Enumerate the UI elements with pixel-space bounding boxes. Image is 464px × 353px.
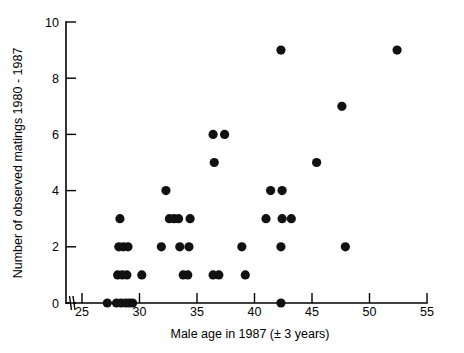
y-ticklabel-0: 0	[52, 297, 59, 311]
x-ticklabel-35: 35	[190, 305, 204, 319]
data-point	[287, 214, 296, 223]
data-point	[341, 242, 350, 251]
data-point	[241, 270, 250, 279]
data-point	[174, 214, 183, 223]
data-point	[278, 186, 287, 195]
x-ticklabel-40: 40	[248, 305, 262, 319]
data-point	[220, 130, 229, 139]
data-point	[210, 158, 219, 167]
data-point	[175, 242, 184, 251]
data-point	[276, 242, 285, 251]
data-point	[128, 298, 137, 307]
y-tick-group	[66, 78, 76, 303]
data-point	[266, 186, 275, 195]
y-ticklabel-4: 4	[52, 184, 59, 198]
data-point	[237, 242, 246, 251]
y-ticklabel-group: 0246810	[45, 16, 59, 311]
data-point	[209, 130, 218, 139]
x-ticklabel-25: 25	[75, 305, 89, 319]
x-ticklabel-55: 55	[420, 305, 434, 319]
data-point	[161, 186, 170, 195]
data-point	[393, 46, 402, 55]
data-point	[261, 214, 270, 223]
chart-canvas: 0246810 25303540455055 Male age in 1987 …	[0, 0, 464, 353]
y-ticklabel-2: 2	[52, 240, 59, 254]
data-point	[278, 214, 287, 223]
data-point	[276, 298, 285, 307]
x-ticklabel-50: 50	[363, 305, 377, 319]
data-point	[137, 270, 146, 279]
data-point	[186, 214, 195, 223]
data-point	[276, 46, 285, 55]
data-point	[122, 270, 131, 279]
y-ticklabel-8: 8	[52, 72, 59, 86]
data-point	[157, 242, 166, 251]
data-point-layer	[103, 46, 402, 308]
scatter-plot-figure: 0246810 25303540455055 Male age in 1987 …	[0, 0, 464, 353]
data-point	[103, 298, 112, 307]
y-ticklabel-6: 6	[52, 128, 59, 142]
data-point	[312, 158, 321, 167]
data-point	[184, 242, 193, 251]
y-ticklabel-10: 10	[45, 16, 59, 30]
y-axis-title: Number of observed matings 1980 - 1987	[11, 48, 25, 279]
data-point	[214, 270, 223, 279]
x-ticklabel-45: 45	[305, 305, 319, 319]
data-point	[115, 214, 124, 223]
data-point	[183, 270, 192, 279]
x-axis-title: Male age in 1987 (± 3 years)	[170, 327, 329, 341]
data-point	[337, 102, 346, 111]
data-point	[123, 242, 132, 251]
